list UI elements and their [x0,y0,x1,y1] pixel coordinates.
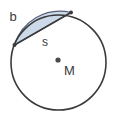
geometry-figure: b s M [0,0,116,123]
arc-label-b: b [9,9,16,24]
chord-label-s: s [42,35,48,49]
center-point-dot [55,57,60,62]
chord-endpoint-marker-right [69,11,73,15]
center-label-m: M [64,63,75,78]
chord-endpoint-marker-left [13,43,17,47]
figure-canvas: b s M [0,0,116,123]
